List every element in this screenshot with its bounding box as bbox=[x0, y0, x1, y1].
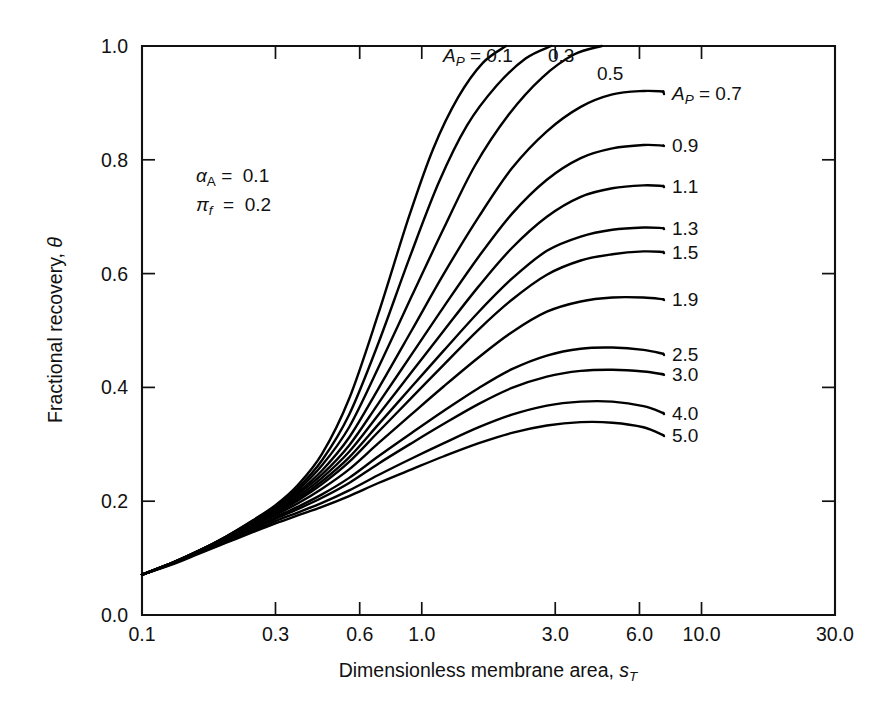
x-axis-title: Dimensionless membrane area, sT bbox=[339, 659, 639, 684]
svg-text:Dimensionless membrane area, s: Dimensionless membrane area, sT bbox=[339, 659, 639, 684]
x-tick-label: 6.0 bbox=[626, 623, 653, 645]
curve-label-4p0: 4.0 bbox=[672, 403, 698, 424]
y-tick-label: 0.4 bbox=[101, 376, 128, 398]
leader-line bbox=[663, 435, 664, 436]
curve-label-0p7: AP = 0.7 bbox=[671, 83, 742, 107]
leader-line bbox=[663, 374, 664, 375]
curve-label-5p0: 5.0 bbox=[672, 425, 698, 446]
leader-line bbox=[663, 299, 664, 300]
curve-label-1p3: 1.3 bbox=[672, 218, 698, 239]
y-tick-label: 0.8 bbox=[101, 149, 128, 171]
curve-label-0p3: 0.3 bbox=[548, 45, 574, 66]
curve-label-1p5: 1.5 bbox=[672, 242, 698, 263]
x-tick-label: 1.0 bbox=[408, 623, 435, 645]
fractional-recovery-chart: 0.10.30.61.03.06.010.030.0 0.00.20.40.60… bbox=[0, 0, 890, 710]
x-tick-label: 3.0 bbox=[542, 623, 569, 645]
x-tick-label: 10.0 bbox=[683, 623, 721, 645]
leader-line bbox=[663, 252, 664, 253]
y-axis-title-symbol: θ bbox=[44, 237, 66, 248]
leader-line bbox=[663, 413, 664, 414]
x-tick-label: 0.1 bbox=[128, 623, 155, 645]
x-tick-label: 30.0 bbox=[816, 623, 854, 645]
x-tick-label: 0.3 bbox=[262, 623, 289, 645]
annotation-pi: πf = 0.2 bbox=[196, 194, 271, 218]
y-tick-label: 0.2 bbox=[101, 490, 128, 512]
chart-background bbox=[0, 0, 890, 710]
leader-line bbox=[663, 92, 664, 95]
annotation-pi-value: 0.2 bbox=[245, 194, 271, 215]
curve-label-1p1: 1.1 bbox=[672, 176, 698, 197]
y-tick-label: 0.6 bbox=[101, 263, 128, 285]
x-axis-title-symbol: s bbox=[619, 659, 629, 681]
y-tick-label: 1.0 bbox=[101, 35, 128, 57]
y-axis-title-text: Fractional recovery, bbox=[44, 253, 66, 423]
curve-label-0p5: 0.5 bbox=[597, 63, 623, 84]
leader-line bbox=[663, 228, 664, 229]
leader-line bbox=[663, 354, 664, 355]
leader-line bbox=[663, 186, 664, 187]
svg-text:Fractional recovery, θ: Fractional recovery, θ bbox=[44, 237, 66, 423]
curve-label-1p9: 1.9 bbox=[672, 289, 698, 310]
x-tick-label: 0.6 bbox=[346, 623, 373, 645]
y-axis-title: Fractional recovery, θ bbox=[44, 237, 66, 423]
annotation-alpha-value: 0.1 bbox=[243, 165, 269, 186]
y-tick-label: 0.0 bbox=[101, 604, 128, 626]
curve-label-2p5: 2.5 bbox=[672, 344, 698, 365]
curve-label-0p1: AP = 0.1 bbox=[442, 45, 513, 69]
chart-figure: 0.10.30.61.03.06.010.030.0 0.00.20.40.60… bbox=[0, 0, 890, 710]
curve-label-3p0: 3.0 bbox=[672, 364, 698, 385]
annotation-alpha-subscript: A bbox=[207, 174, 216, 189]
x-axis-title-text: Dimensionless membrane area, bbox=[339, 659, 614, 681]
curve-label-0p9: 0.9 bbox=[672, 135, 698, 156]
